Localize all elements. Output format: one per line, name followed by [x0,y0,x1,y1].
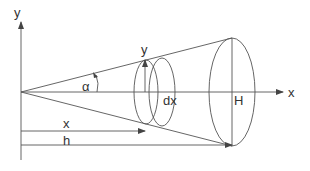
base-radius-label: H [234,94,243,107]
angle-label: α [82,80,90,93]
cone-top-edge [21,38,232,92]
height-label: h [63,134,70,147]
y-axis-label: y [14,6,21,19]
diagram-canvas [0,0,310,171]
x-distance-label: x [63,117,70,130]
x-axis-label: x [288,86,295,99]
slice-radius-label: y [141,43,148,56]
cone-bottom-edge [21,92,232,146]
cone-diagram: y x α y dx H x h [0,0,310,171]
angle-arc [96,75,98,92]
slice-thickness-label: dx [163,94,177,107]
